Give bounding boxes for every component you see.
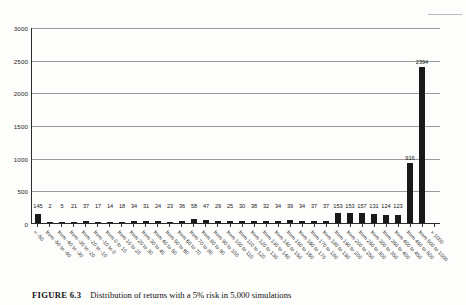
- bar[interactable]: [251, 221, 257, 223]
- x-tick-slot: [404, 224, 416, 227]
- bar-slot[interactable]: 34: [128, 28, 140, 223]
- bar[interactable]: [107, 222, 113, 223]
- x-label-slot: from 100 to 110: [224, 228, 236, 298]
- bar-slot[interactable]: 37: [320, 28, 332, 223]
- x-label-slot: from 400 to 450: [392, 228, 404, 298]
- bar[interactable]: [35, 214, 41, 223]
- x-label-slot: from 140 to 150: [272, 228, 284, 298]
- bar[interactable]: [71, 222, 77, 223]
- bar[interactable]: [275, 221, 281, 223]
- bar-slot[interactable]: 131: [368, 28, 380, 223]
- bar-slot[interactable]: 36: [176, 28, 188, 223]
- x-label-slot: from -40 to -30: [55, 228, 67, 298]
- x-label-slot: from 160 to 170: [296, 228, 308, 298]
- bar-slot[interactable]: 2394: [416, 28, 428, 223]
- bar[interactable]: [83, 221, 89, 223]
- x-tick-mark: [422, 224, 423, 227]
- bar-slot[interactable]: 30: [236, 28, 248, 223]
- bar[interactable]: [335, 213, 341, 223]
- bar[interactable]: [227, 221, 233, 223]
- x-tick-slot: [284, 224, 296, 227]
- bar[interactable]: [419, 67, 425, 223]
- bar-slot[interactable]: 21: [68, 28, 80, 223]
- bar[interactable]: [47, 222, 53, 223]
- y-axis-tick-label: 500: [17, 188, 28, 195]
- x-tick-slot: [31, 224, 43, 227]
- bar[interactable]: [407, 163, 413, 223]
- bar-slot[interactable]: 47: [200, 28, 212, 223]
- x-tick-slot: [151, 224, 163, 227]
- x-tick-slot: [199, 224, 211, 227]
- bar[interactable]: [287, 220, 293, 223]
- bar[interactable]: [347, 213, 353, 223]
- bar-slot[interactable]: 153: [332, 28, 344, 223]
- bar[interactable]: [119, 222, 125, 223]
- bar[interactable]: [239, 221, 245, 223]
- x-tick-slot: [236, 224, 248, 227]
- bar[interactable]: [263, 221, 269, 223]
- bar[interactable]: [95, 222, 101, 223]
- bar-slot[interactable]: 39: [284, 28, 296, 223]
- bar[interactable]: [299, 221, 305, 223]
- bar[interactable]: [203, 220, 209, 223]
- bar[interactable]: [359, 213, 365, 223]
- bar-value-label: 25: [227, 204, 233, 211]
- bar-slot[interactable]: 916: [404, 28, 416, 223]
- bar[interactable]: [167, 222, 173, 224]
- bar[interactable]: [143, 221, 149, 223]
- x-tick-mark: [217, 224, 218, 227]
- bar-slot[interactable]: 24: [152, 28, 164, 223]
- bar-slot[interactable]: 18: [116, 28, 128, 223]
- x-tick-slot: [103, 224, 115, 227]
- bar-slot[interactable]: 124: [380, 28, 392, 223]
- bar[interactable]: [323, 221, 329, 223]
- bar-slot[interactable]: 123: [392, 28, 404, 223]
- x-tick-mark: [410, 224, 411, 227]
- bar-slot[interactable]: 37: [308, 28, 320, 223]
- bar-slot[interactable]: 14: [104, 28, 116, 223]
- bar-value-label: 157: [357, 204, 366, 211]
- figure-caption: FIGURE 6.3Distribution of returns with a…: [32, 290, 452, 300]
- bar-slot[interactable]: 17: [92, 28, 104, 223]
- bar-slot[interactable]: 34: [296, 28, 308, 223]
- x-label-slot: from -50 to -40: [43, 228, 55, 298]
- bar-slot[interactable]: 29: [212, 28, 224, 223]
- bar-slot[interactable]: 32: [260, 28, 272, 223]
- bar-value-label: 37: [311, 204, 317, 211]
- bar[interactable]: [215, 221, 221, 223]
- bar[interactable]: [371, 214, 377, 223]
- bar-slot[interactable]: 145: [32, 28, 44, 223]
- x-tick-mark: [37, 224, 38, 227]
- bar[interactable]: [179, 221, 185, 223]
- bar[interactable]: [311, 221, 317, 223]
- bar-slot[interactable]: 153: [344, 28, 356, 223]
- bar-slot[interactable]: 31: [140, 28, 152, 223]
- x-tick-mark: [133, 224, 134, 227]
- bar-slot[interactable]: 2: [44, 28, 56, 223]
- x-label-slot: from 0 to 10: [103, 228, 115, 298]
- bar-slot[interactable]: 5: [56, 28, 68, 223]
- x-tick-mark: [338, 224, 339, 227]
- bar-slot[interactable]: 37: [80, 28, 92, 223]
- bar-slot[interactable]: [428, 28, 440, 223]
- bar[interactable]: [395, 215, 401, 223]
- bar-slot[interactable]: 38: [248, 28, 260, 223]
- bar[interactable]: [383, 215, 389, 223]
- bar-slot[interactable]: 34: [272, 28, 284, 223]
- bar[interactable]: [59, 222, 65, 223]
- bar-slot[interactable]: 58: [188, 28, 200, 223]
- bar-slot[interactable]: 25: [224, 28, 236, 223]
- bar-slot[interactable]: 23: [164, 28, 176, 223]
- bar-value-label: 153: [345, 204, 354, 211]
- x-tick-mark: [254, 224, 255, 227]
- bar-value-label: 36: [179, 204, 185, 211]
- x-label-slot: from 170 to 180: [308, 228, 320, 298]
- bar-value-label: 18: [119, 204, 125, 211]
- bar[interactable]: [155, 221, 161, 223]
- x-tick-mark: [85, 224, 86, 227]
- x-label-slot: from 20 to 30: [127, 228, 139, 298]
- bar[interactable]: [131, 221, 137, 223]
- bar-slot[interactable]: 157: [356, 28, 368, 223]
- bar-value-label: 32: [263, 204, 269, 211]
- bar[interactable]: [191, 219, 197, 223]
